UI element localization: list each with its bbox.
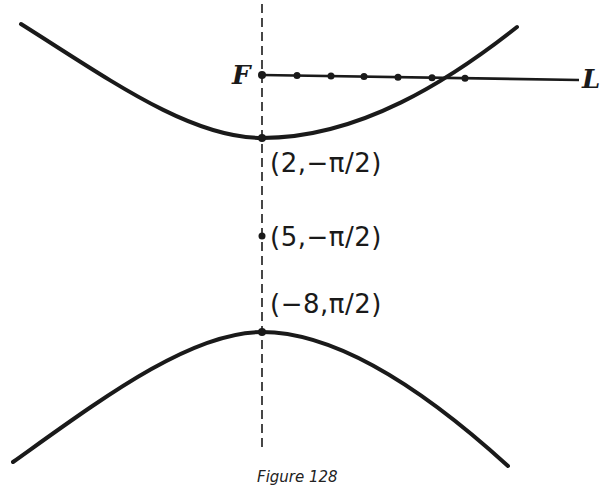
lower-vertex-label: (−8,π/2) <box>270 289 382 319</box>
lower-vertex-dot <box>258 328 266 336</box>
center-dot <box>259 233 266 240</box>
figure-caption: Figure 128 <box>257 468 338 486</box>
focus-label: F <box>232 60 250 90</box>
upper-vertex-dot <box>258 134 266 142</box>
lower-branch <box>13 332 508 466</box>
upper-branch <box>21 24 517 138</box>
upper-vertex-label: (2,−π/2) <box>270 148 382 178</box>
center-label: (5,−π/2) <box>270 222 382 252</box>
polar-axis <box>262 75 579 80</box>
axis-label: L <box>582 64 600 94</box>
